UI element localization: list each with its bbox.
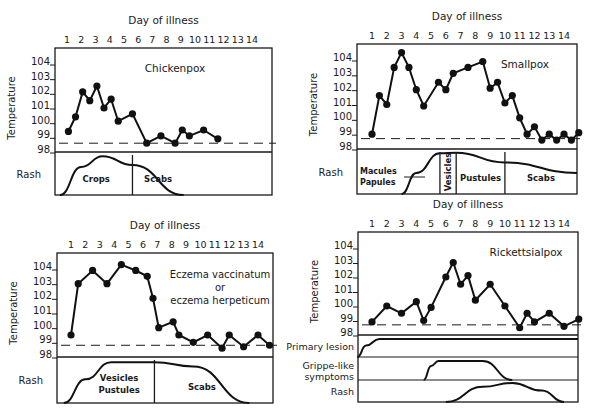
data-point (143, 140, 150, 147)
data-point (132, 267, 139, 274)
data-point (538, 137, 545, 144)
chart-title: Eczema vaccinatum (170, 269, 271, 280)
data-point (450, 259, 457, 266)
temperature-line (372, 263, 579, 328)
rash-curve (446, 383, 564, 402)
x-tick-label: 4 (107, 34, 113, 45)
x-tick-label: 7 (458, 30, 464, 41)
data-point (391, 64, 398, 71)
y-axis-title: Temperature (8, 281, 19, 345)
x-tick-label: 14 (558, 30, 570, 41)
data-point (100, 104, 107, 111)
x-tick-label: 3 (97, 239, 103, 250)
chart-title: Smallpox (501, 58, 549, 70)
data-point (420, 102, 427, 109)
data-point (398, 310, 405, 317)
x-tick-label: 10 (194, 239, 206, 250)
data-point (93, 82, 100, 89)
phase-label: Scabs (527, 173, 555, 183)
y-tick-label: 99 (37, 129, 50, 140)
data-point (413, 298, 420, 305)
data-point (420, 317, 427, 324)
chart-panel-3: Day of illness12345678910111213149899100… (8, 219, 277, 403)
x-tick-label: 11 (514, 218, 526, 229)
x-tick-label: 1 (369, 30, 375, 41)
data-point (523, 131, 530, 138)
x-tick-label: 9 (178, 34, 184, 45)
x-tick-label: 6 (443, 30, 449, 41)
data-point (72, 113, 79, 120)
x-tick-label: 9 (487, 218, 493, 229)
y-tick-label: 99 (39, 334, 52, 345)
data-point (368, 318, 375, 325)
x-tick-label: 14 (252, 239, 264, 250)
x-tick-label: 3 (399, 30, 405, 41)
x-tick-label: 5 (428, 218, 434, 229)
data-point (86, 97, 93, 104)
y-tick-label: 102 (31, 85, 50, 96)
data-point (383, 302, 390, 309)
y-tick-label: 99 (340, 313, 353, 324)
data-point (575, 129, 582, 136)
y-tick-label: 98 (339, 141, 352, 152)
x-tick-label: 8 (164, 34, 170, 45)
y-tick-label: 100 (33, 320, 52, 331)
chart-title-3: eczema herpeticum (170, 295, 269, 306)
x-tick-label: 1 (369, 218, 375, 229)
data-point (494, 79, 501, 86)
data-point (108, 96, 115, 103)
data-point (553, 137, 560, 144)
y-tick-label: 102 (334, 269, 353, 280)
data-point (115, 118, 122, 125)
data-point (240, 343, 247, 350)
phase-label: Pustules (99, 385, 140, 395)
x-tick-label: 2 (384, 30, 390, 41)
y-tick-label: 104 (33, 261, 52, 272)
y-tick-label: 104 (333, 52, 352, 63)
data-point (516, 114, 523, 121)
data-point (405, 64, 412, 71)
x-tick-label: 2 (78, 34, 84, 45)
data-point (65, 128, 72, 135)
y-tick-label: 101 (334, 284, 353, 295)
data-point (190, 339, 197, 346)
x-tick-label: 12 (223, 239, 235, 250)
x-tick-label: 5 (121, 34, 127, 45)
data-point (179, 126, 186, 133)
phase-label: Vesicles (443, 153, 453, 192)
data-point (575, 315, 582, 322)
x-tick-label: 14 (246, 34, 258, 45)
y-tick-label: 99 (339, 126, 352, 137)
y-tick-label: 103 (334, 255, 353, 266)
chart-panel-2: Day of illness12345678910111213149899100… (308, 10, 582, 194)
x-tick-label: 12 (528, 30, 540, 41)
rash-curve (357, 339, 578, 357)
data-point (501, 302, 508, 309)
y-tick-label: 98 (340, 327, 353, 338)
data-point (170, 318, 177, 325)
grippe-label: Grippe-like (302, 360, 354, 371)
y-tick-label: 98 (37, 144, 50, 155)
y-tick-label: 103 (333, 67, 352, 78)
x-tick-label: 4 (111, 239, 117, 250)
data-point (89, 267, 96, 274)
x-tick-label: 4 (413, 30, 419, 41)
data-point (531, 318, 538, 325)
y-axis-title: Temperature (308, 73, 319, 137)
x-tick-label: 13 (232, 34, 244, 45)
y-tick-label: 104 (31, 56, 50, 67)
data-point (464, 64, 471, 71)
rash-label: Rash (331, 386, 354, 397)
data-point (560, 131, 567, 138)
phase-label: Scabs (188, 382, 216, 392)
disease-fever-rash-charts: Day of illness12345678910111213149899100… (0, 0, 591, 420)
x-tick-label: 10 (189, 34, 201, 45)
data-point (144, 273, 151, 280)
y-tick-label: 102 (33, 290, 52, 301)
phase-label: Papules (360, 178, 396, 187)
y-tick-label: 101 (33, 305, 52, 316)
data-point (67, 331, 74, 338)
x-axis-title: Day of illness (130, 219, 200, 231)
data-point (487, 281, 494, 288)
chart-panel-4: Day of illness12345678910111213149899100… (286, 198, 582, 402)
